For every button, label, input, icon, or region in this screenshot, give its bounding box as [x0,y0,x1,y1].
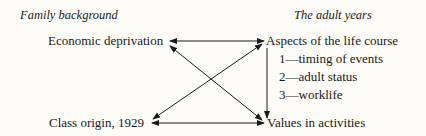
arrow-class-aspects [153,44,262,119]
diagram-arrows [0,0,426,136]
arrow-econ-values [170,46,262,120]
